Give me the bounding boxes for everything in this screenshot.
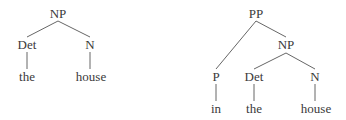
noun-phrase-tree-node-n: N xyxy=(85,38,94,52)
prepositional-phrase-tree-node-np: NP xyxy=(278,38,295,52)
noun-phrase-tree-node-np: NP xyxy=(50,7,67,21)
prepositional-phrase-tree-node-n: N xyxy=(310,70,319,84)
tree-edge xyxy=(216,21,256,69)
prepositional-phrase-tree-node-the: the xyxy=(246,102,262,116)
tree-edge xyxy=(58,21,90,37)
prepositional-phrase-tree-node-p: P xyxy=(212,70,219,84)
prepositional-phrase-tree-node-in: in xyxy=(211,102,221,116)
noun-phrase-tree-node-house: house xyxy=(76,70,106,84)
tree-edge xyxy=(286,53,315,69)
prepositional-phrase-tree-node-det: Det xyxy=(245,70,264,84)
prepositional-phrase-tree-node-pp: PP xyxy=(249,7,263,21)
prepositional-phrase-tree-node-house: house xyxy=(301,102,331,116)
tree-edge xyxy=(254,53,286,69)
noun-phrase-tree-node-the: the xyxy=(19,70,35,84)
tree-edge xyxy=(27,21,58,37)
noun-phrase-tree-node-det: Det xyxy=(18,38,37,52)
tree-edge xyxy=(256,21,286,37)
